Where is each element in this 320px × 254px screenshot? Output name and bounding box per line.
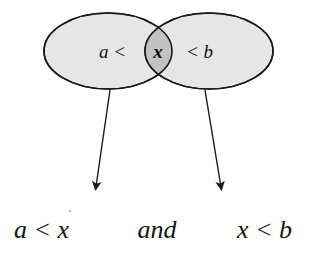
right-set-label: < b bbox=[186, 41, 213, 62]
left-arrow bbox=[96, 90, 111, 190]
scan-speck bbox=[69, 210, 72, 213]
intersection-label: x bbox=[152, 41, 163, 62]
conclusion-left-expression: a < x bbox=[14, 215, 70, 244]
conclusion-right-expression: x < b bbox=[236, 215, 292, 244]
conclusion-conjunction: and bbox=[138, 215, 178, 244]
diagram-canvas: a < x < b a < x and x < b bbox=[0, 0, 320, 254]
right-arrow bbox=[205, 90, 222, 190]
left-set-label: a < bbox=[99, 41, 126, 62]
venn-diagram: a < x < b a < x and x < b bbox=[0, 0, 320, 254]
